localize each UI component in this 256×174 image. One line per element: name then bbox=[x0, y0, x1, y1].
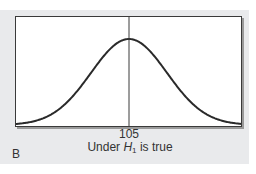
figure-caption: Under H1 is true bbox=[74, 140, 186, 158]
caption-suffix: is true bbox=[137, 140, 173, 154]
normal-curve-plot bbox=[15, 16, 242, 127]
panel-label: B bbox=[12, 148, 20, 161]
hypothesis-symbol: H bbox=[123, 140, 132, 154]
caption-prefix: Under bbox=[87, 140, 123, 154]
